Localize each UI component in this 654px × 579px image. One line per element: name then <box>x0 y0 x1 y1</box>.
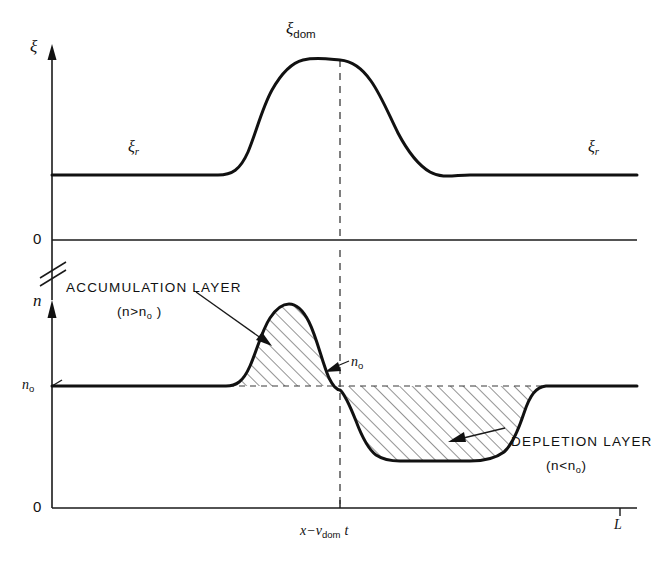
dep-cond-operator: < <box>559 458 567 473</box>
arrow-pointer-icon <box>325 362 341 372</box>
acc-cond-base: n <box>139 304 147 319</box>
accumulation-layer-condition: (n>no ) <box>117 305 162 321</box>
electric-field-curve <box>52 58 637 176</box>
n0-pointer-sub: o <box>358 360 363 371</box>
n0-pointer-base: n <box>351 354 358 369</box>
acc-cond-suffix: ) <box>153 304 162 319</box>
n0-pointer-leader <box>325 361 349 372</box>
accumulation-layer-title: ACCUMULATION LAYER <box>66 281 242 295</box>
lower-y-axis <box>48 300 57 508</box>
peak-field-label-sub: dom <box>293 28 315 40</box>
x-axis-label: x−vdomt <box>300 523 348 540</box>
figure-container: ξ ξdom ξr ξr 0 n ACCUMULATION LAYER (n>n… <box>0 0 654 579</box>
field-baseline-label-right: ξr <box>588 139 599 157</box>
arrow-up-icon <box>48 300 57 318</box>
upper-y-axis-label: ξ <box>30 38 37 55</box>
n0-axis-sub: o <box>29 383 34 394</box>
x-axis-label-suffix: t <box>344 523 348 538</box>
accumulation-layer-hatch <box>215 295 355 395</box>
dep-cond-prefix: (n <box>546 458 559 473</box>
field-baseline-right-sub: r <box>595 145 599 157</box>
x-axis-end-label: L <box>614 518 622 532</box>
depletion-layer-title: DEPLETION LAYER <box>511 435 653 449</box>
acc-cond-operator: > <box>130 304 138 319</box>
field-baseline-right-base: ξ <box>588 138 595 155</box>
peak-field-label: ξdom <box>286 20 316 40</box>
n0-axis-label: no <box>22 377 34 394</box>
axis-break-icon <box>40 240 66 300</box>
dep-cond-base: n <box>568 458 576 473</box>
upper-y-axis <box>48 44 57 240</box>
lower-y-axis-label: n <box>33 292 42 309</box>
arrow-up-icon <box>48 44 57 60</box>
upper-zero-label: 0 <box>33 231 41 246</box>
x-axis-label-prefix: x−v <box>300 523 322 538</box>
field-baseline-left-base: ξ <box>128 138 135 155</box>
accumulation-leader <box>196 292 272 346</box>
lower-zero-label: 0 <box>33 499 41 514</box>
acc-cond-prefix: (n <box>117 304 130 319</box>
depletion-layer-condition: (n<no) <box>546 459 587 475</box>
x-axis-label-sub: dom <box>322 529 341 540</box>
n0-axis-base: n <box>22 377 29 392</box>
n0-pointer-label: no <box>351 354 363 371</box>
dep-cond-suffix: ) <box>582 458 587 473</box>
field-baseline-label-left: ξr <box>128 139 139 157</box>
field-baseline-left-sub: r <box>135 145 139 157</box>
